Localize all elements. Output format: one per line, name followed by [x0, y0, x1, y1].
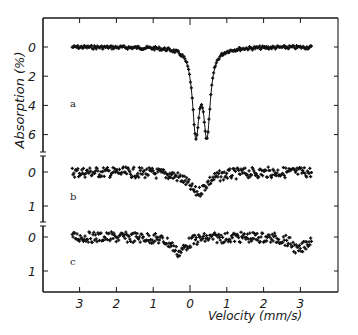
data-point	[71, 167, 74, 170]
panel-label: b	[70, 191, 76, 202]
x-axis-label: Velocity (mm/s)	[208, 309, 302, 323]
data-point	[166, 237, 169, 240]
data-point	[89, 237, 92, 240]
data-point	[139, 241, 142, 244]
data-point	[126, 241, 129, 244]
data-point	[309, 237, 312, 240]
data-point	[176, 171, 179, 174]
data-point	[308, 167, 311, 170]
data-point	[118, 168, 121, 171]
panel-label: a	[70, 98, 76, 109]
fit-curves	[72, 47, 311, 139]
x-tick-label: 1	[149, 297, 157, 311]
panel-label: c	[70, 256, 76, 267]
data-point	[247, 169, 250, 172]
data-point	[219, 179, 222, 182]
y-tick-label: 6	[28, 127, 36, 142]
data-point	[103, 175, 106, 178]
x-tick-label: 0	[186, 297, 194, 311]
data-point	[194, 185, 197, 188]
data-point	[296, 173, 299, 176]
y-tick-label: 0	[28, 165, 36, 180]
y-tick-label: 1	[28, 264, 36, 279]
data-point	[267, 166, 270, 169]
data-point	[158, 238, 161, 241]
y-tick-label: 2	[28, 69, 36, 84]
data-point	[88, 167, 91, 170]
data-point	[219, 175, 222, 178]
x-tick-label: 3	[76, 297, 84, 311]
data-point	[155, 176, 158, 179]
mossbauer-spectra-figure: 32101230246a01b01c Absorption (%) Veloci…	[0, 0, 358, 335]
x-tick-label: 2	[113, 297, 121, 311]
data-point	[83, 234, 86, 237]
data-point	[175, 179, 178, 182]
y-tick-label: 1	[28, 199, 36, 214]
axis-ticks: 32101230246a01b01c	[28, 18, 338, 311]
data-point	[195, 190, 198, 193]
y-tick-label: 4	[28, 98, 36, 113]
data-point	[276, 169, 279, 172]
data-point	[239, 231, 242, 234]
data-point	[192, 242, 195, 245]
data-point	[203, 240, 206, 243]
data-point	[285, 239, 288, 242]
data-point	[198, 186, 201, 189]
fit-curve	[72, 47, 311, 139]
data-point	[157, 241, 160, 244]
y-axis-label: Absorption (%)	[12, 52, 27, 150]
data-point	[235, 177, 238, 180]
data-point	[143, 176, 146, 179]
data-points	[71, 44, 313, 258]
y-tick-label: 0	[28, 40, 36, 55]
data-point	[215, 241, 218, 244]
data-point	[233, 240, 236, 243]
data-point	[208, 176, 211, 179]
y-tick-label: 0	[28, 230, 36, 245]
data-point	[309, 175, 312, 178]
data-point	[205, 234, 208, 237]
